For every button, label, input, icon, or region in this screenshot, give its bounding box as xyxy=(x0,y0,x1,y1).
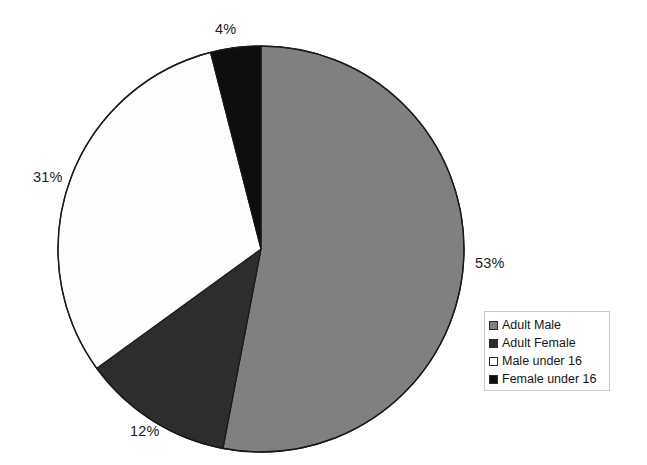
pie-chart-canvas xyxy=(0,0,647,465)
legend-item-male-under-16: Male under 16 xyxy=(489,352,604,370)
legend-swatch-female-under-16 xyxy=(489,375,498,384)
legend-label-adult-male: Adult Male xyxy=(502,319,561,332)
legend-item-adult-female: Adult Female xyxy=(489,334,604,352)
legend-item-adult-male: Adult Male xyxy=(489,316,604,334)
legend-label-adult-female: Adult Female xyxy=(502,337,576,350)
legend-item-female-under-16: Female under 16 xyxy=(489,370,604,388)
slice-label-adult-male: 53% xyxy=(475,256,505,271)
legend-label-male-under-16: Male under 16 xyxy=(502,355,582,368)
chart-legend: Adult Male Adult Female Male under 16 Fe… xyxy=(484,311,610,391)
slice-label-female-under-16: 4% xyxy=(215,22,236,37)
slice-label-adult-female: 12% xyxy=(130,424,160,439)
slice-label-male-under-16: 31% xyxy=(33,170,63,185)
legend-label-female-under-16: Female under 16 xyxy=(502,373,597,386)
pie-chart: 53% 12% 31% 4% Adult Male Adult Female M… xyxy=(0,0,647,465)
legend-swatch-male-under-16 xyxy=(489,357,498,366)
legend-swatch-adult-female xyxy=(489,339,498,348)
pie-slice-group xyxy=(58,46,464,452)
legend-swatch-adult-male xyxy=(489,321,498,330)
